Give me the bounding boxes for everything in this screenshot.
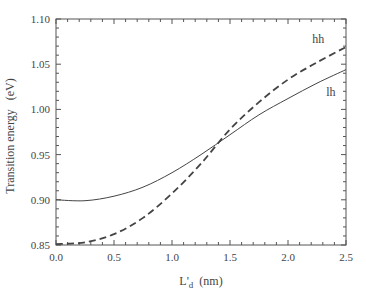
x-tick-label: 2.5 xyxy=(339,251,353,263)
x-axis-label-main: L' xyxy=(179,274,189,288)
y-tick-label: 0.90 xyxy=(31,194,51,206)
curve-lh xyxy=(56,70,346,201)
series-label-lh: lh xyxy=(326,85,335,99)
x-axis-label-unit: (nm) xyxy=(199,274,222,288)
y-tick-label: 0.85 xyxy=(31,239,51,251)
x-tick-label: 1.0 xyxy=(165,251,179,263)
transition-energy-chart: 0.00.51.01.52.02.50.850.900.951.001.051.… xyxy=(0,0,366,291)
y-axis-label: Transition energy (eV) xyxy=(3,78,17,193)
x-axis-label: L'd(nm) xyxy=(179,274,222,290)
curve-hh xyxy=(56,47,346,244)
y-tick-label: 1.05 xyxy=(31,58,51,70)
x-tick-label: 0.0 xyxy=(49,251,63,263)
plot-curves xyxy=(56,47,346,244)
plot-labels: hhlh xyxy=(312,32,335,98)
y-tick-label: 0.95 xyxy=(31,149,51,161)
series-label-hh: hh xyxy=(312,32,324,46)
y-tick-label: 1.00 xyxy=(31,103,51,115)
x-tick-label: 0.5 xyxy=(107,251,121,263)
x-tick-label: 1.5 xyxy=(223,251,237,263)
y-tick-label: 1.10 xyxy=(31,13,51,25)
plot-axes: 0.00.51.01.52.02.50.850.900.951.001.051.… xyxy=(31,13,354,263)
x-tick-label: 2.0 xyxy=(281,251,295,263)
x-axis-label-sub: d xyxy=(189,280,194,290)
plot-frame xyxy=(56,19,346,245)
